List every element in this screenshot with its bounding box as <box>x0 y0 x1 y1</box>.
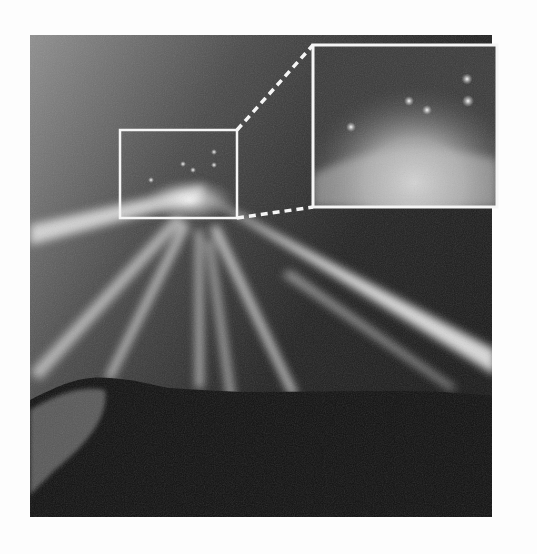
photo-figure <box>0 0 537 554</box>
zoom-inset <box>313 45 497 207</box>
searchlight-photo <box>0 0 537 554</box>
